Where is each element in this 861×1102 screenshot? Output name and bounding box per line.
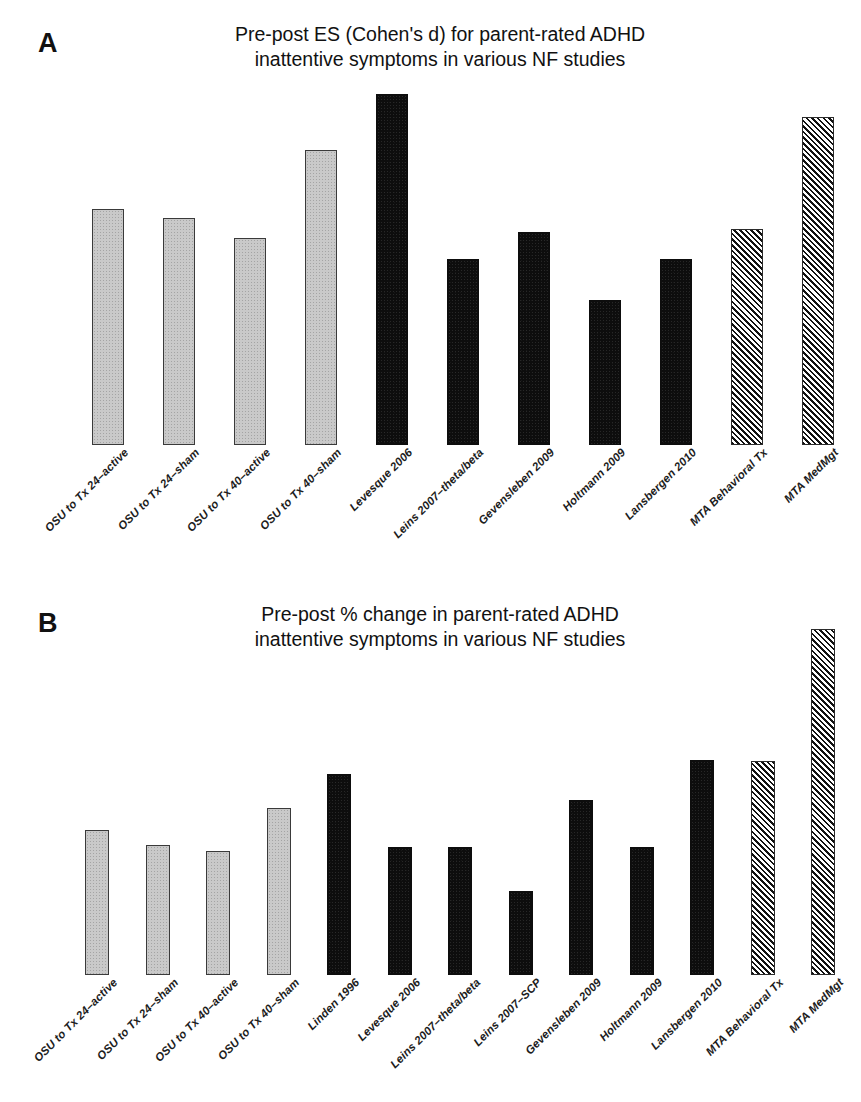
figure-root: A Pre-post ES (Cohen's d) for parent-rat… (0, 0, 861, 1102)
bar-panel-b-2 (206, 851, 230, 975)
x-tick-label-text: MTA Behavioral Tx (687, 446, 769, 528)
panel-b-x-axis-labels: OSU to Tx 24–activeOSU to Tx 24–shamOSU … (0, 976, 861, 1101)
panel-b: B Pre-post % change in parent-rated ADHD… (0, 570, 861, 1102)
bar-panel-b-1 (146, 845, 170, 975)
x-tick-label-text: MTA MedMgt (787, 976, 846, 1035)
bar-panel-b-6 (448, 847, 472, 975)
panel-a: A Pre-post ES (Cohen's d) for parent-rat… (0, 0, 861, 570)
x-tick-label-text: Holtmann 2009 (560, 446, 627, 513)
x-tick-label-text: Gevensleben 2009 (476, 446, 557, 527)
bar-panel-a-7 (589, 300, 621, 445)
panel-a-x-axis-labels: OSU to Tx 24–activeOSU to Tx 24–shamOSU … (0, 446, 861, 571)
x-tick-label-text: Linden 1996 (305, 976, 361, 1032)
x-tick-label-text: OSU to Tx 40–sham (257, 446, 343, 532)
bar-panel-b-5 (388, 847, 412, 975)
x-tick-label-text: Levesque 2006 (347, 446, 414, 513)
x-tick-label-text: Holtmann 2009 (597, 976, 664, 1043)
panel-b-plot-area (0, 570, 861, 975)
bar-panel-a-0 (92, 209, 124, 445)
bar-panel-b-9 (630, 847, 654, 975)
x-tick-label-text: Levesque 2006 (355, 976, 422, 1043)
panel-a-plot-area (0, 0, 861, 445)
x-tick-label-text: MTA MedMgt (782, 446, 841, 505)
x-tick-label-text: Lansbergen 2010 (622, 446, 698, 522)
bar-panel-b-0 (85, 830, 109, 975)
x-tick-label-text: OSU to Tx 24–sham (115, 446, 201, 532)
